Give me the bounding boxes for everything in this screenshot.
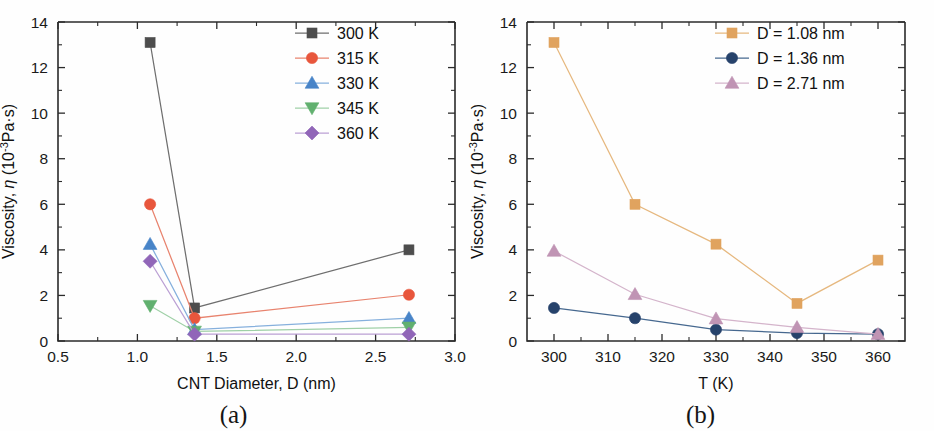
data-point: [402, 311, 416, 323]
legend-label: 330 K: [337, 75, 379, 92]
legend-marker: [307, 28, 317, 38]
data-point: [709, 312, 723, 324]
data-point: [143, 254, 157, 268]
legend: D = 1.08 nmD = 1.36 nmD = 2.71 nm: [715, 25, 845, 92]
legend: 300 K315 K330 K345 K360 K: [295, 25, 379, 142]
y-tick-label: 2: [39, 287, 48, 304]
legend-marker: [727, 28, 737, 38]
x-tick-label: 1.0: [127, 348, 149, 365]
y-tick-label: 12: [31, 59, 48, 76]
x-axis-title: CNT Diameter, D (nm): [177, 375, 336, 392]
panel-b-caption: (b): [467, 401, 934, 429]
data-point: [873, 255, 883, 265]
viscosity-vs-temperature-chart: 02468101214300310320330340350360T (K)Vis…: [467, 0, 934, 400]
data-point: [630, 199, 640, 209]
y-tick-label: 4: [508, 241, 517, 258]
y-tick-label: 14: [500, 14, 518, 31]
y-axis-title-text: Viscosity, η (10-3Pa·s): [0, 104, 17, 259]
data-point: [549, 38, 559, 48]
chart-panel-a: 024681012140.51.01.52.02.53.0CNT Diamete…: [0, 0, 467, 431]
series-line: [150, 204, 409, 318]
x-tick-label: 1.5: [206, 348, 228, 365]
y-tick-label: 10: [31, 105, 49, 122]
series-2: [143, 237, 416, 334]
y-tick-label: 0: [39, 333, 48, 350]
x-tick-label: 300: [541, 348, 567, 365]
y-tick-label: 10: [500, 105, 518, 122]
legend-marker: [725, 76, 739, 88]
y-tick-label: 6: [508, 196, 517, 213]
data-point: [404, 245, 414, 255]
plot-frame: [58, 22, 455, 341]
figure-root: 024681012140.51.01.52.02.53.0CNT Diamete…: [0, 0, 934, 431]
y-axis-title: Viscosity, η (10-3Pa·s): [467, 104, 486, 259]
data-point: [792, 298, 802, 308]
data-point: [402, 327, 416, 341]
plot-frame: [527, 22, 905, 341]
data-point: [629, 313, 640, 324]
data-point: [145, 199, 156, 210]
legend-marker: [726, 52, 737, 63]
series-1: [145, 199, 415, 324]
y-tick-label: 0: [508, 333, 517, 350]
x-axis-title: T (K): [698, 375, 733, 392]
chart-panel-b: 02468101214300310320330340350360T (K)Vis…: [467, 0, 934, 431]
series-3: [143, 300, 416, 338]
x-tick-label: 320: [649, 348, 675, 365]
y-tick-label: 12: [500, 59, 517, 76]
legend-marker: [305, 76, 319, 88]
legend-marker: [306, 52, 317, 63]
x-tick-label: 0.5: [47, 348, 69, 365]
legend-label: D = 1.08 nm: [757, 25, 845, 42]
data-point: [711, 239, 721, 249]
legend-marker: [305, 103, 319, 115]
y-tick-label: 8: [508, 150, 517, 167]
y-tick-label: 4: [39, 241, 48, 258]
x-tick-label: 340: [757, 348, 783, 365]
legend-marker: [305, 126, 319, 140]
data-point: [548, 302, 559, 313]
data-point: [547, 244, 561, 256]
legend-label: 300 K: [337, 25, 379, 42]
data-point: [143, 237, 157, 249]
data-point: [145, 38, 155, 48]
x-tick-label: 3.0: [444, 348, 466, 365]
legend-label: 345 K: [337, 100, 379, 117]
y-tick-label: 8: [39, 150, 48, 167]
y-tick-label: 2: [508, 287, 517, 304]
panel-a-caption: (a): [0, 401, 467, 429]
y-axis-title-text: Viscosity, η (10-3Pa·s): [467, 104, 486, 259]
x-tick-label: 2.0: [285, 348, 307, 365]
data-point: [710, 324, 721, 335]
legend-label: 360 K: [337, 125, 379, 142]
y-tick-label: 14: [31, 14, 49, 31]
x-tick-label: 350: [811, 348, 837, 365]
data-point: [143, 300, 157, 312]
data-point: [628, 288, 642, 300]
legend-label: D = 1.36 nm: [757, 50, 845, 67]
y-axis-title: Viscosity, η (10-3Pa·s): [0, 104, 17, 259]
legend-label: D = 2.71 nm: [757, 75, 845, 92]
x-tick-label: 360: [865, 348, 891, 365]
y-tick-label: 6: [39, 196, 48, 213]
x-tick-label: 2.5: [365, 348, 387, 365]
data-point: [403, 289, 414, 300]
viscosity-vs-diameter-chart: 024681012140.51.01.52.02.53.0CNT Diamete…: [0, 0, 467, 400]
x-tick-label: 330: [703, 348, 729, 365]
legend-label: 315 K: [337, 50, 379, 67]
x-tick-label: 310: [595, 348, 621, 365]
